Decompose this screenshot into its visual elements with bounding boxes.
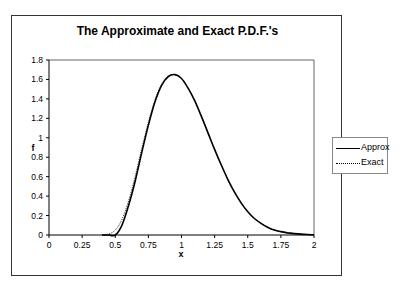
x-tick-label: 1.25 <box>206 240 223 250</box>
x-tick-label: 1.75 <box>273 240 290 250</box>
x-tick-label: 0.5 <box>109 240 121 250</box>
series-exact-line <box>102 75 314 235</box>
legend-item-approx: Approx <box>335 141 387 155</box>
y-tick-label: 1.4 <box>31 94 43 104</box>
solid-line-swatch-icon <box>336 148 360 149</box>
tick-labels: 00.20.40.60.811.21.41.61.800.250.50.7511… <box>31 55 316 250</box>
y-tick-label: 0.8 <box>31 152 43 162</box>
x-tick-label: 2 <box>312 240 317 250</box>
x-tick-label: 0.25 <box>74 240 91 250</box>
x-tick-label: 0.75 <box>140 240 157 250</box>
dotted-line-swatch-icon <box>336 163 360 164</box>
axes <box>46 60 314 238</box>
y-tick-label: 1 <box>38 133 43 143</box>
y-tick-label: 0.4 <box>31 191 43 201</box>
x-tick-label: 1.5 <box>242 240 254 250</box>
legend-item-exact: Exact <box>335 156 387 170</box>
x-axis-label: x <box>178 249 183 259</box>
legend-label: Approx <box>361 142 390 152</box>
x-tick-label: 0 <box>47 240 52 250</box>
y-tick-label: 1.6 <box>31 74 43 84</box>
y-tick-label: 0.6 <box>31 172 43 182</box>
y-tick-label: 1.8 <box>31 55 43 65</box>
series-approx-line <box>102 75 314 236</box>
y-tick-label: 0.2 <box>31 211 43 221</box>
y-tick-label: 0 <box>38 230 43 240</box>
legend: Approx Exact <box>332 137 388 174</box>
legend-label: Exact <box>361 157 384 167</box>
y-tick-label: 1.2 <box>31 113 43 123</box>
